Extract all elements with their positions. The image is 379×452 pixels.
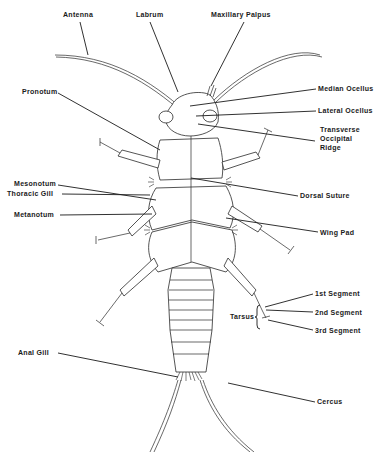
label-2nd-segment: 2nd Segment <box>315 309 362 317</box>
label-anal-gill: Anal Gill <box>18 349 49 357</box>
label-metanotum: Metanotum <box>14 211 54 219</box>
label-transverse-occipital-ridge-2: Occipital <box>320 135 352 143</box>
label-lateral-ocellus: Lateral Ocellus <box>318 107 373 115</box>
label-cercus: Cercus <box>317 398 343 406</box>
cercus-right <box>200 380 250 452</box>
antenna-right <box>214 53 322 102</box>
anal-gills <box>176 372 202 381</box>
leg-hind-right <box>224 258 270 318</box>
cercus-left-inner <box>154 380 181 452</box>
metanotum-shape <box>149 222 236 272</box>
label-1st-segment: 1st Segment <box>315 290 360 298</box>
label-pronotum: Pronotum <box>22 88 57 96</box>
label-transverse-occipital-ridge-3: Ridge <box>320 144 341 152</box>
leg-mid-left <box>96 206 156 244</box>
label-wing-pad: Wing Pad <box>320 229 354 237</box>
cercus-left <box>150 380 178 452</box>
label-median-ocellus: Median Ocellus <box>318 85 374 93</box>
label-labrum: Labrum <box>136 11 163 19</box>
label-mesonotum: Mesonotum <box>14 180 56 188</box>
label-antenna: Antenna <box>63 11 93 19</box>
tarsus-bracket <box>255 305 260 329</box>
label-dorsal-suture: Dorsal Suture <box>300 192 350 200</box>
stonefly-nymph-diagram <box>0 0 379 452</box>
label-tarsus: Tarsus <box>230 313 254 321</box>
leg-front-left <box>100 138 160 168</box>
label-transverse-occipital-ridge-1: Transverse <box>320 126 360 134</box>
label-3rd-segment: 3rd Segment <box>315 327 361 335</box>
pronotum-shape <box>157 138 223 180</box>
abdomen <box>168 268 214 372</box>
compound-eye-left <box>159 111 173 123</box>
leg-hind-left <box>96 258 158 326</box>
label-thoracic-gill: Thoracic Gill <box>7 190 53 198</box>
leg-front-right <box>222 128 272 170</box>
label-maxillary-palpus: Maxillary Palpus <box>211 11 271 19</box>
cercus-right-inner <box>203 380 254 452</box>
